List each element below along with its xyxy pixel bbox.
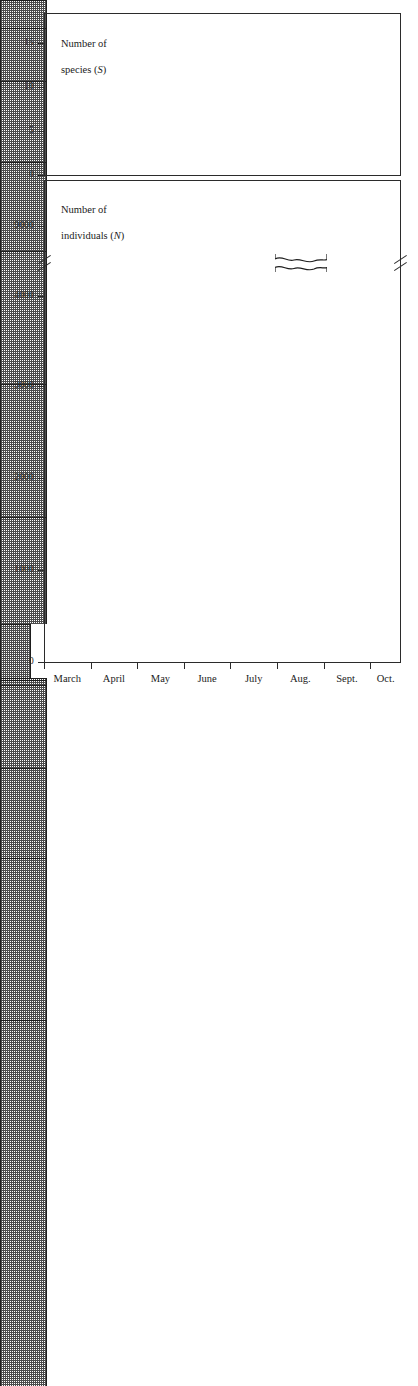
bottom-ytick-mark-3000 [38,386,44,387]
xtick-label-april: April [91,673,138,684]
bottom-ytick-mark-1000 [38,570,44,571]
top-ytick-label-0: 0 [10,169,34,179]
xtick-mark-7 [370,662,371,669]
bar-individuals-aug [0,1020,47,1386]
top-ytick-mark-10 [38,87,44,88]
axis-break-mark-left [37,255,53,271]
xtick-mark-4 [230,662,231,669]
top-panel: 0 5 10 15 Number of species (S) [0,0,418,678]
bar-species-oct [0,624,31,678]
xtick-label-oct: Oct. [370,673,401,684]
bottom-panel-x-axis [44,662,401,663]
bar-species-april [0,28,47,82]
bottom-ytick-label-0: 0 [8,656,34,666]
top-ytick-label-10: 10 [8,81,34,91]
bottom-panel-label: Number of individuals (N) [61,190,124,242]
xtick-mark-5 [277,662,278,669]
xtick-label-june: June [184,673,231,684]
bottom-ytick-mark-4000 [38,296,44,297]
top-panel-y-axis [44,13,45,176]
bottom-ytick-label-1000: 1000 [2,564,34,574]
top-panel-x-axis [44,175,401,176]
xtick-label-may: May [137,673,184,684]
bottom-panel-frame-top [44,180,401,181]
axis-break-mark-right [393,255,409,271]
bottom-panel-label-line1: Number of [61,204,107,215]
top-panel-frame-top [44,13,401,14]
axis-break-wave [275,254,327,272]
top-panel-frame-right [400,13,401,176]
top-ytick-label-5: 5 [10,125,34,135]
bottom-panel-y-axis [44,180,45,663]
bar-individuals-july [0,858,47,1020]
top-panel-label: Number of species (S) [61,24,107,76]
bar-individuals-june [0,768,47,858]
top-ytick-label-15: 15 [8,37,34,47]
bottom-ytick-label-4000: 4000 [2,290,34,300]
bottom-ytick-label-3000: 3000 [2,380,34,390]
top-panel-label-line2: species (S) [61,64,106,75]
top-ytick-mark-15 [38,43,44,44]
xtick-mark-0 [44,662,45,669]
bottom-ytick-mark-2000 [38,478,44,479]
top-ytick-mark-5 [38,131,44,132]
bar-species-may [0,81,47,161]
bottom-panel-label-line2: individuals (N) [61,230,124,241]
bar-species-march [0,0,47,28]
xtick-mark-3 [184,662,185,669]
top-ytick-mark-0 [38,175,44,176]
bottom-panel: 0 1000 2000 3000 4000 9000 Number of ind… [0,678,418,1386]
xtick-mark-6 [324,662,325,669]
bottom-ytick-label-9000: 9000 [2,220,34,230]
bottom-ytick-label-2000: 2000 [2,472,34,482]
xtick-label-march: March [44,673,91,684]
xtick-mark-2 [137,662,138,669]
top-panel-label-line1: Number of [61,38,107,49]
xtick-mark-1 [91,662,92,669]
bottom-ytick-mark-9000 [38,226,44,227]
bar-species-aug [0,384,47,517]
xtick-label-sept: Sept. [324,673,371,684]
bar-individuals-may [0,685,47,768]
xtick-label-aug: Aug. [277,673,324,684]
bottom-panel-frame-right [400,180,401,663]
xtick-label-july: July [230,673,277,684]
